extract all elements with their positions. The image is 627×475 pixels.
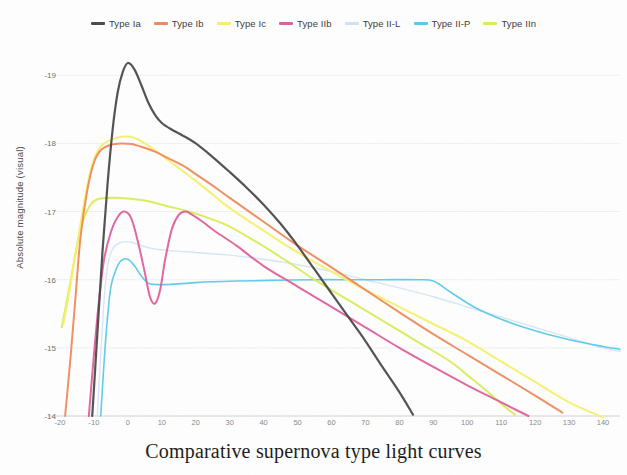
series-line-type-ii-p [101, 259, 620, 416]
legend-swatch-icon [345, 22, 359, 25]
legend-swatch-icon [483, 22, 497, 25]
legend-label: Type Ib [172, 18, 204, 29]
legend-swatch-icon [91, 22, 105, 25]
legend-item[interactable]: Type IIb [279, 18, 332, 29]
x-tick-label: 100 [453, 418, 481, 427]
legend-swatch-icon [217, 22, 231, 25]
x-tick-label: 80 [385, 418, 413, 427]
x-tick-label: 70 [351, 418, 379, 427]
x-tick-label: 40 [250, 418, 278, 427]
legend-item[interactable]: Type IIn [483, 18, 536, 29]
legend-item[interactable]: Type Ia [91, 18, 141, 29]
plot-canvas [0, 34, 627, 438]
series-line-type-ic [63, 137, 603, 418]
legend-item[interactable]: Type Ib [154, 18, 204, 29]
series-line-type-ii-l [97, 242, 620, 416]
chart-legend: Type IaType IbType IcType IIbType II-LTy… [0, 12, 627, 34]
y-tick-label: -18 [22, 139, 56, 148]
x-tick-label: 60 [318, 418, 346, 427]
plot-area-wrapper: Absolute magnitude (visual) -19-18-17-16… [0, 34, 627, 438]
x-tick-label: -10 [80, 418, 108, 427]
y-axis-ticks: -19-18-17-16-15-14 [0, 34, 56, 438]
legend-label: Type Ic [235, 18, 266, 29]
legend-label: Type IIb [297, 18, 332, 29]
legend-label: Type Ia [109, 18, 141, 29]
y-tick-label: -16 [22, 275, 56, 284]
x-tick-label: 0 [114, 418, 142, 427]
x-tick-label: -20 [46, 418, 74, 427]
chart-title: Comparative supernova type light curves [0, 440, 627, 463]
y-tick-label: -15 [22, 343, 56, 352]
x-tick-label: 50 [284, 418, 312, 427]
x-tick-label: 30 [216, 418, 244, 427]
legend-item[interactable]: Type II-P [414, 18, 471, 29]
x-tick-label: 120 [521, 418, 549, 427]
chart-figure: Type IaType IbType IcType IIbType II-LTy… [0, 0, 627, 475]
x-tick-label: 90 [419, 418, 447, 427]
y-tick-label: -17 [22, 207, 56, 216]
y-tick-label: -19 [22, 71, 56, 80]
x-tick-label: 10 [148, 418, 176, 427]
legend-item[interactable]: Type II-L [345, 18, 401, 29]
legend-swatch-icon [414, 22, 428, 25]
legend-label: Type II-P [432, 18, 471, 29]
x-tick-label: 140 [589, 418, 617, 427]
series-line-type-iib [89, 212, 529, 416]
x-tick-label: 110 [487, 418, 515, 427]
series-line-type-iin [62, 198, 515, 415]
legend-swatch-icon [279, 22, 293, 25]
legend-label: Type IIn [501, 18, 536, 29]
x-axis-ticks: -20-100102030405060708090100110120130140 [0, 416, 627, 438]
legend-label: Type II-L [363, 18, 401, 29]
legend-swatch-icon [154, 22, 168, 25]
legend-item[interactable]: Type Ic [217, 18, 266, 29]
x-tick-label: 20 [182, 418, 210, 427]
x-tick-label: 130 [555, 418, 583, 427]
